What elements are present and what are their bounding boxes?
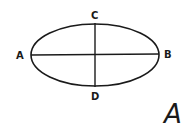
point-label-b: B xyxy=(164,49,172,60)
point-label-c: C xyxy=(91,10,98,21)
point-label-d: D xyxy=(91,91,99,102)
ellipse-diagram: A B C D A xyxy=(0,0,196,129)
figure-label: A xyxy=(162,99,182,129)
point-label-a: A xyxy=(16,50,24,61)
